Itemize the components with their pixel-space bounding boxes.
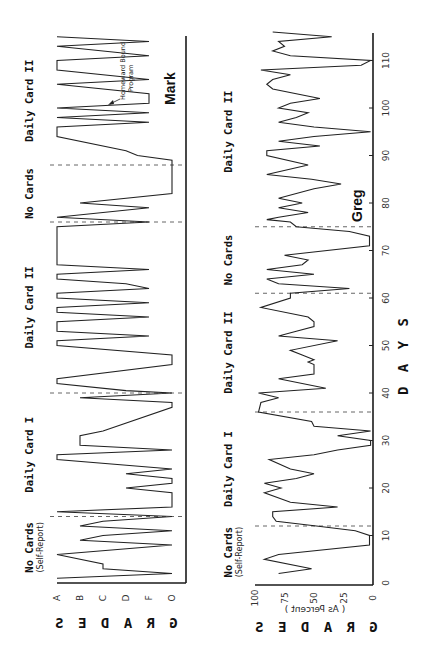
days-tick-label: 20 <box>381 482 391 494</box>
greg-trace <box>259 32 371 574</box>
days-tick-label: 80 <box>381 197 391 209</box>
greg-y-tick-label: 50 <box>309 592 319 604</box>
mark-phase-label: Daily Card II <box>23 60 35 142</box>
greg-y-tick-label: 25 <box>339 592 349 603</box>
greg-phase-label: No Cards <box>222 527 234 578</box>
mark-phase-label: No Cards <box>23 522 35 573</box>
greg-phase-labels: No Cards(Self-Report)Daily Card IDaily C… <box>222 91 244 578</box>
greg-chart: 0255075100 No Cards(Self-Report)Daily Ca… <box>222 32 378 635</box>
mark-trace <box>57 37 172 579</box>
greg-y-tick-label: 100 <box>250 589 260 606</box>
mark-phase-labels: No Cards(Self-Report)Daily Card IDaily C… <box>23 60 45 573</box>
greg-phase-label: Daily Card II <box>222 312 234 394</box>
mark-phase-sublabel: (Self-Report) <box>36 522 45 572</box>
mark-chart: ABCDFO No Cards(Self-Report)Daily Card I… <box>23 36 186 631</box>
mark-phase-label: Daily Card I <box>23 417 35 493</box>
days-tick-label: 110 <box>381 52 391 69</box>
greg-y-tick-label: 0 <box>368 595 378 601</box>
mark-y-tick-label: D <box>121 594 131 601</box>
days-tick-label: 90 <box>381 150 391 162</box>
mark-phase-label: No Cards <box>23 168 35 219</box>
days-tick-label: 100 <box>381 99 391 116</box>
greg-y-axis-title: G R A D E S <box>252 619 378 635</box>
days-tick-label-zero: 0 <box>381 580 391 586</box>
days-tick-label: 10 <box>381 530 391 542</box>
greg-phase-sublabel: (Self-Report) <box>235 527 244 577</box>
annotation-text: Homeward Bound Program <box>119 40 135 100</box>
greg-y-axis-subtitle: ( As Percent ) <box>285 604 345 614</box>
mark-y-tick-label: A <box>52 594 62 601</box>
mark-y-tick-label: C <box>98 595 108 601</box>
greg-phase-label: Daily Card II <box>222 91 234 173</box>
days-axis-title: D A Y S <box>395 315 411 395</box>
annotation-line-2: Program <box>127 65 135 92</box>
mark-y-tick-label: B <box>75 595 85 601</box>
mark-y-ticks: ABCDFO <box>52 594 177 601</box>
greg-subject-label: Greg <box>349 189 365 222</box>
mark-y-tick-label: F <box>144 595 154 600</box>
days-tick-label: 70 <box>381 245 391 257</box>
figure: ABCDFO No Cards(Self-Report)Daily Card I… <box>0 0 432 658</box>
greg-phase-label: No Cards <box>222 235 234 286</box>
mark-phase-label: Daily Card II <box>23 266 35 348</box>
greg-phase-label: Daily Card I <box>222 431 234 507</box>
days-tick-label: 50 <box>381 340 391 352</box>
greg-y-tick-label: 75 <box>280 592 290 603</box>
mark-y-axis-title: G R A D E S <box>52 615 178 631</box>
days-tick-label: 30 <box>381 435 391 447</box>
homeward-bound-annotation: Homeward Bound Program <box>108 40 135 105</box>
annotation-line-1: Homeward Bound <box>119 42 127 100</box>
mark-y-tick-label: O <box>167 594 177 601</box>
annotation-arrowhead <box>108 100 114 105</box>
days-tick-label: 40 <box>381 387 391 399</box>
days-tick-label: 60 <box>381 292 391 304</box>
greg-phase-lines <box>255 227 373 526</box>
mark-subject-label: Mark <box>162 72 178 105</box>
